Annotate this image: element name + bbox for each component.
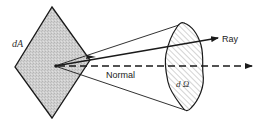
ray-arrow-icon (86, 55, 96, 59)
apex-point (54, 64, 58, 68)
solid-angle-diagram: dA Ray Normal d Ω (0, 0, 264, 127)
label-dA: dA (12, 38, 24, 49)
label-ray: Ray (222, 34, 239, 44)
label-dOmega: d Ω (176, 79, 190, 89)
label-normal: Normal (106, 70, 135, 80)
